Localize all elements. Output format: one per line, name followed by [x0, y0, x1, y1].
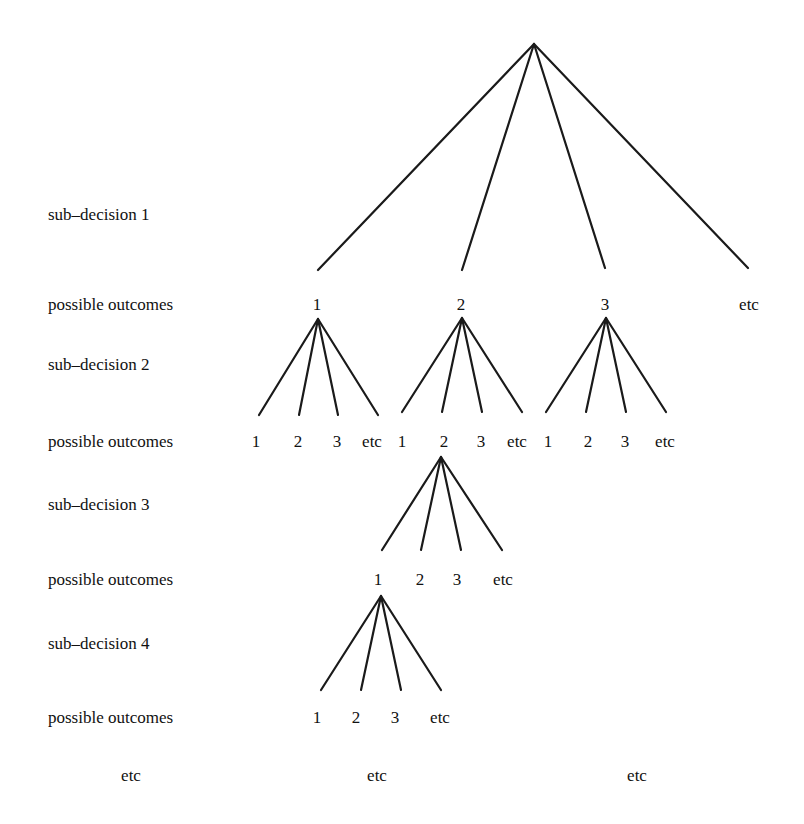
outcome-node: 1: [313, 708, 322, 728]
tree-edges: [0, 0, 804, 824]
row-label: sub–decision 4: [48, 634, 150, 654]
outcome-node: etc: [655, 432, 675, 452]
outcome-node: etc: [362, 432, 382, 452]
outcome-node: 3: [333, 432, 342, 452]
footer-etc-label: etc: [367, 766, 387, 786]
outcome-node: 1: [313, 295, 322, 315]
row-label: sub–decision 3: [48, 495, 150, 515]
outcome-node: 3: [601, 295, 610, 315]
branch-line: [382, 457, 441, 550]
outcome-node: 1: [252, 432, 261, 452]
row-label: sub–decision 2: [48, 355, 150, 375]
outcome-node: 1: [544, 432, 553, 452]
outcome-node: etc: [493, 570, 513, 590]
outcome-node: 3: [621, 432, 630, 452]
outcome-node: 2: [440, 432, 449, 452]
outcome-node: etc: [739, 295, 759, 315]
outcome-node: 2: [352, 708, 361, 728]
outcome-node: etc: [430, 708, 450, 728]
outcome-node: 3: [477, 432, 486, 452]
branch-line: [462, 44, 534, 270]
row-label: possible outcomes: [48, 432, 173, 452]
row-label: possible outcomes: [48, 570, 173, 590]
outcome-node: 2: [294, 432, 303, 452]
footer-etc-label: etc: [627, 766, 647, 786]
decision-tree-diagram: sub–decision 1possible outcomessub–decis…: [0, 0, 804, 824]
outcome-node: 1: [374, 570, 383, 590]
branch-line: [534, 44, 748, 268]
row-label: sub–decision 1: [48, 205, 150, 225]
footer-etc-label: etc: [121, 766, 141, 786]
outcome-node: 1: [398, 432, 407, 452]
outcome-node: 2: [416, 570, 425, 590]
outcome-node: 2: [457, 295, 466, 315]
outcome-node: 3: [453, 570, 462, 590]
outcome-node: etc: [507, 432, 527, 452]
outcome-node: 2: [584, 432, 593, 452]
outcome-node: 3: [391, 708, 400, 728]
branch-line: [534, 44, 605, 268]
row-label: possible outcomes: [48, 708, 173, 728]
branch-line: [318, 44, 534, 270]
row-label: possible outcomes: [48, 295, 173, 315]
